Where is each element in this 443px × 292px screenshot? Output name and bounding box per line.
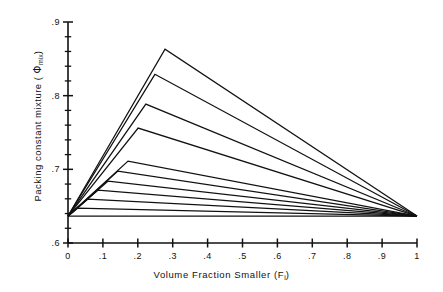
phi-symbol: Φ	[32, 65, 43, 73]
y-tick-label: .6	[38, 238, 60, 248]
x-axis-title: Volume Fraction Smaller (Fi)	[0, 269, 443, 281]
x-tick-label: .1	[99, 251, 108, 261]
x-axis-title-text: Volume Fraction Smaller (F	[153, 269, 284, 280]
x-tick-label: .3	[168, 251, 177, 261]
data-curve	[68, 181, 417, 216]
curve-group	[68, 49, 417, 216]
y-axis-title: Packing constant mixture ( Φmix)	[32, 26, 44, 226]
chart-figure: 0.1.2.3.4.5.6.7.8.91 .6.7.8.9 Volume Fra…	[0, 0, 443, 292]
x-tick-label: .7	[308, 251, 317, 261]
x-tick-label: .8	[343, 251, 352, 261]
x-tick-label: .6	[273, 251, 282, 261]
y-axis-title-subscript: mix	[37, 54, 44, 65]
x-tick-label: .9	[378, 251, 387, 261]
x-tick-label: .2	[134, 251, 143, 261]
y-axis-title-suffix: )	[32, 51, 43, 55]
x-tick-label: .5	[238, 251, 247, 261]
x-tick-label: 0	[65, 251, 71, 261]
data-curve	[68, 49, 417, 216]
x-tick-label: 1	[414, 251, 420, 261]
plot-canvas	[0, 0, 443, 292]
x-tick-label: .4	[203, 251, 212, 261]
x-axis-title-suffix: )	[286, 269, 290, 280]
y-axis-title-text: Packing constant mixture (	[32, 73, 43, 201]
